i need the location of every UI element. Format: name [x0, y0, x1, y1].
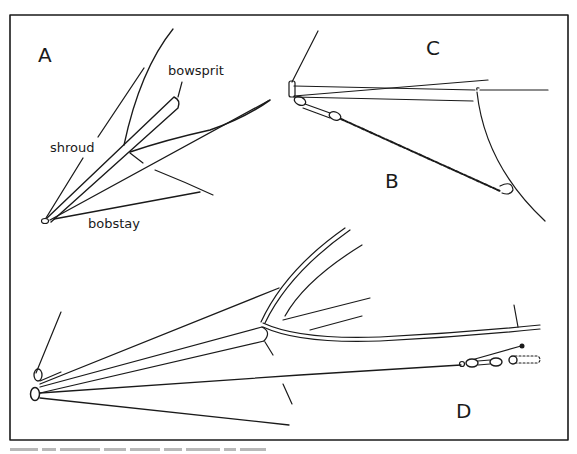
- headstay-lower: [50, 101, 268, 220]
- bobstay-chain: [341, 119, 500, 191]
- panel-d-label: D: [456, 399, 471, 423]
- forestay-d: [36, 312, 61, 373]
- panel-b-label: B: [385, 169, 399, 193]
- stem-curve: [477, 88, 545, 221]
- stanchion: [514, 305, 518, 327]
- whisker-stay: [294, 80, 488, 96]
- bowsprit-end-fitting: [42, 219, 49, 224]
- shroud-line: [98, 68, 144, 137]
- stem-double-2: [265, 230, 350, 323]
- figure-caption-cropped: [10, 448, 290, 454]
- panel-c-label: C: [426, 36, 440, 60]
- panel-bc: C B: [289, 31, 548, 221]
- label-shroud: shroud: [50, 140, 95, 155]
- stem-inner: [285, 245, 362, 316]
- bobstay-eye: [500, 184, 513, 194]
- upper-fitting: [34, 369, 42, 381]
- panel-d: D: [31, 228, 541, 425]
- bobstay-link: [303, 104, 330, 118]
- lower-stay-d: [40, 398, 289, 425]
- bowsprit-cap: [289, 81, 295, 97]
- label-bobstay: bobstay: [88, 216, 140, 231]
- label-bowsprit: bowsprit: [168, 63, 224, 78]
- shackle-1: [466, 359, 478, 367]
- cathead-2: [310, 316, 362, 330]
- hull-line: [130, 153, 213, 195]
- headstay: [130, 100, 270, 152]
- bobstay-d: [40, 365, 461, 393]
- lanyard-knob: [520, 344, 525, 349]
- thimble: [460, 362, 465, 367]
- panel-a: A bowsprit shroud bobstay: [38, 29, 270, 231]
- shackle-2: [490, 358, 502, 366]
- rail-line-1: [263, 323, 540, 337]
- cathead-1: [283, 298, 370, 320]
- bobstay-turnbuckle: [328, 110, 342, 122]
- upper-stay: [40, 288, 279, 384]
- stem-dash: [265, 342, 292, 404]
- lower-fitting: [31, 388, 40, 401]
- panel-a-label: A: [38, 43, 52, 67]
- bowsprit-pointer: [178, 82, 182, 97]
- lanyard: [475, 346, 521, 359]
- bowsprit-top-d: [40, 327, 262, 387]
- bowsprit-bottom: [294, 97, 473, 101]
- bowsprit-spar: [47, 97, 179, 222]
- rigging-diagram: A bowsprit shroud bobstay C B: [0, 0, 577, 454]
- turnbuckle-body: [478, 360, 490, 365]
- toggle-pin: [515, 356, 540, 363]
- forestay: [292, 31, 318, 82]
